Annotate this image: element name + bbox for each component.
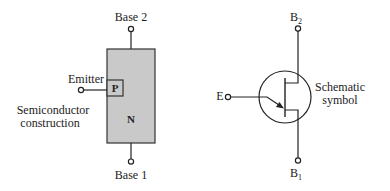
caption-line2: construction [20,116,79,130]
schematic-symbol: B2 E B1 Schematic symbol [216,10,365,182]
e-terminal [225,94,230,99]
b1-label: B1 [290,166,302,182]
b2-terminal [295,26,300,31]
base1-label: Base 1 [115,168,147,182]
b1-terminal [295,158,300,163]
e-label: E [216,89,223,103]
symbol-caption-line2: symbol [322,93,358,107]
emitter-label: Emitter [68,72,104,86]
base2-label: Base 2 [115,10,147,24]
symbol-caption-line1: Schematic [315,80,365,94]
emitter-terminal [78,87,83,92]
b2-label: B2 [290,10,302,26]
b2-lead [285,31,298,83]
semiconductor-construction: Base 2 P N Emitter Semiconductor constru… [17,10,155,182]
n-label: N [127,113,135,125]
emitter-lead [231,97,282,107]
p-label: P [112,82,119,94]
base1-terminal [128,159,133,164]
caption-line1: Semiconductor [17,103,90,117]
emitter-arrow-icon [276,102,284,109]
base2-terminal [128,26,133,31]
b1-lead [285,110,298,158]
ujt-diagram: Base 2 P N Emitter Semiconductor constru… [0,0,390,191]
